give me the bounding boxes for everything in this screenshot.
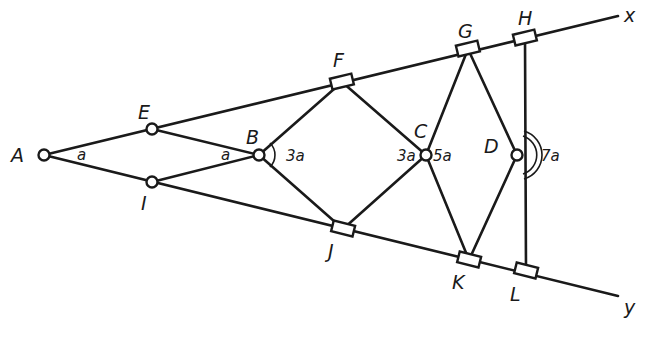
label-k: K	[452, 271, 466, 293]
label-l: L	[510, 283, 521, 305]
angle-label-b-right: 3a	[286, 147, 305, 165]
slider-k	[457, 252, 481, 268]
pivot-d	[512, 150, 523, 161]
angle-arc-b	[270, 143, 275, 167]
label-f: F	[333, 49, 345, 71]
link-kd	[469, 155, 517, 260]
pivot-c	[421, 150, 432, 161]
link-eb	[152, 129, 259, 155]
slider-g	[456, 41, 480, 57]
label-c: C	[414, 120, 428, 142]
angle-label-b-left: a	[221, 146, 230, 164]
pivot-a	[39, 150, 50, 161]
label-h: H	[518, 7, 532, 29]
link-fc	[342, 82, 426, 155]
label-j: J	[324, 240, 334, 262]
slider-h	[513, 30, 537, 46]
label-b: B	[246, 126, 259, 148]
link-hl	[525, 38, 526, 271]
link-ck	[426, 155, 469, 260]
pivot-b	[254, 150, 265, 161]
label-x: x	[623, 4, 636, 26]
link-jc	[343, 155, 426, 229]
label-i: I	[141, 192, 147, 214]
slider-l	[514, 263, 538, 279]
pivot-e	[147, 124, 158, 135]
label-d: D	[484, 135, 499, 157]
link-ib	[152, 155, 259, 182]
angle-label-c-left: 3a	[397, 147, 416, 165]
pivot-i	[147, 177, 158, 188]
label-e: E	[138, 101, 150, 123]
angle-label-d-right: 7a	[541, 147, 560, 165]
linkage-diagram: A E I B F J C G K D H L x y a a 3a 3a 5a…	[0, 0, 652, 344]
angle-label-c-right: 5a	[433, 147, 452, 165]
slider-f	[330, 74, 354, 90]
label-a: A	[9, 144, 24, 166]
label-y: y	[623, 296, 636, 318]
link-cg	[426, 49, 468, 155]
angle-label-a: a	[77, 146, 86, 164]
label-g: G	[458, 20, 473, 42]
